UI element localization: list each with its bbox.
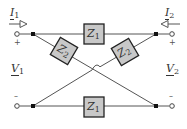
terminal-2-plus	[170, 32, 175, 37]
terminal-1-minus	[15, 104, 20, 109]
current-label-i2: I2	[165, 7, 174, 20]
junction-dot-top-left	[31, 32, 35, 36]
voltage-label-v1: V1	[11, 63, 24, 76]
minus-sign-port2: –	[169, 93, 173, 101]
terminal-2-minus	[170, 104, 175, 109]
plus-sign-port1: +	[14, 39, 21, 47]
impedance-label-top-z1: Z1	[87, 28, 100, 41]
impedance-label-bottom-z1: Z1	[87, 101, 100, 114]
current-arrow-i1-icon	[9, 21, 27, 28]
current-arrow-i2-icon	[161, 21, 180, 28]
minus-sign-port1: –	[14, 93, 18, 101]
junction-dot-bottom-left	[31, 104, 35, 108]
plus-sign-port2: +	[169, 39, 176, 47]
voltage-label-v2: V2	[166, 63, 179, 76]
junction-dot-top-right	[154, 32, 158, 36]
current-label-i1: I1	[10, 7, 19, 20]
terminal-1-plus	[15, 32, 20, 37]
junction-dot-bottom-right	[154, 104, 158, 108]
